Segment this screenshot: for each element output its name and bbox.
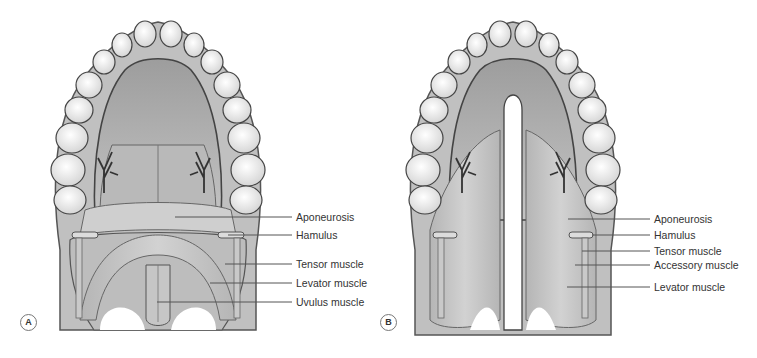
label-hamulus-b: Hamulus bbox=[654, 229, 695, 241]
panel-a bbox=[51, 21, 292, 330]
label-uvulus-muscle-a: Uvulus muscle bbox=[296, 296, 364, 308]
label-levator-muscle-a: Levator muscle bbox=[296, 277, 367, 289]
label-levator-muscle-b: Levator muscle bbox=[654, 281, 725, 293]
palate-anatomy-illustration bbox=[0, 0, 757, 358]
palatal-cleft bbox=[504, 95, 522, 330]
label-tensor-muscle-b: Tensor muscle bbox=[654, 245, 722, 257]
label-tensor-muscle-a: Tensor muscle bbox=[296, 258, 364, 270]
panel-badge-a: A bbox=[20, 314, 37, 331]
label-aponeurosis-a: Aponeurosis bbox=[296, 211, 354, 223]
label-aponeurosis-b: Aponeurosis bbox=[654, 213, 712, 225]
label-accessory-muscle-b: Accessory muscle bbox=[654, 259, 739, 271]
label-hamulus-a: Hamulus bbox=[296, 229, 337, 241]
panel-badge-b: B bbox=[380, 314, 397, 331]
panel-b bbox=[406, 21, 650, 335]
